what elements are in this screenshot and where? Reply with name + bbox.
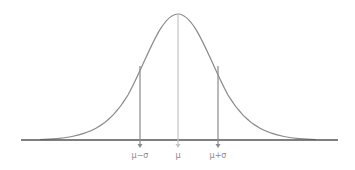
minus-sigma-arrow-icon bbox=[138, 144, 143, 148]
mean-arrow-icon bbox=[176, 144, 181, 148]
label-mu: μ bbox=[175, 151, 180, 160]
normal-curve-diagram bbox=[0, 0, 355, 170]
label-mu-minus-sigma: μ−σ bbox=[132, 151, 149, 160]
plus-sigma-arrow-icon bbox=[216, 144, 221, 148]
label-mu-plus-sigma: μ+σ bbox=[210, 151, 227, 160]
